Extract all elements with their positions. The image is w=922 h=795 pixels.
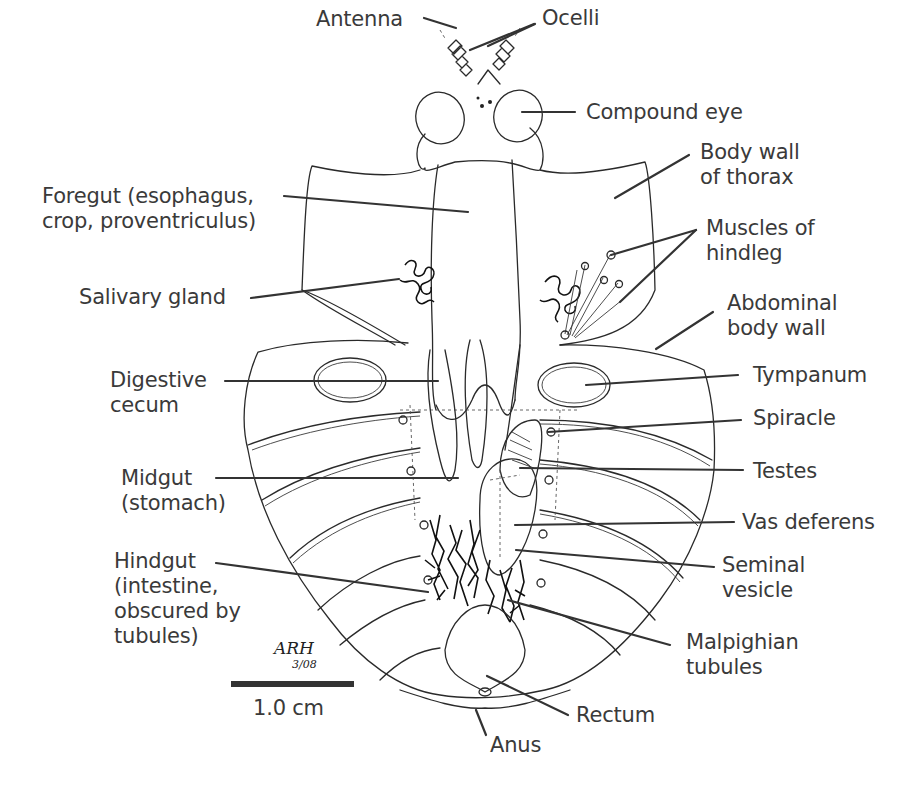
label-malpighian-tubules: Malpighian tubules xyxy=(686,630,799,680)
label-tympanum: Tympanum xyxy=(753,363,867,388)
head-drawing xyxy=(409,70,550,170)
label-digestive-cecum: Digestive cecum xyxy=(110,368,207,418)
spiracles-drawing xyxy=(399,416,555,587)
label-anus: Anus xyxy=(490,733,541,758)
label-abdominal-body-wall: Abdominal body wall xyxy=(727,291,837,341)
hindleg-muscles-drawing xyxy=(561,251,623,339)
label-spiracle: Spiracle xyxy=(753,406,836,431)
label-antenna: Antenna xyxy=(316,7,403,32)
salivary-gland-drawing xyxy=(400,261,580,322)
label-rectum: Rectum xyxy=(576,703,655,728)
label-muscles-hindleg: Muscles of hindleg xyxy=(706,216,815,266)
leader-lines xyxy=(216,18,743,735)
gut-drawing xyxy=(428,340,542,575)
label-compound-eye: Compound eye xyxy=(586,100,743,125)
foregut-drawing xyxy=(431,160,520,419)
label-body-wall-thorax: Body wall of thorax xyxy=(700,140,800,190)
label-foregut: Foregut (esophagus, crop, proventriculus… xyxy=(42,184,256,234)
label-salivary-gland: Salivary gland xyxy=(79,285,226,310)
scale-bar xyxy=(231,681,354,687)
svg-text:3/08: 3/08 xyxy=(292,658,317,671)
label-testes: Testes xyxy=(753,459,817,484)
anatomy-diagram: ARH 3/08 xyxy=(0,0,922,795)
scale-bar-label: 1.0 cm xyxy=(253,696,324,721)
svg-text:ARH: ARH xyxy=(272,638,315,658)
label-midgut: Midgut (stomach) xyxy=(121,466,226,516)
label-ocelli: Ocelli xyxy=(542,6,599,31)
artist-signature: ARH 3/08 xyxy=(272,638,317,671)
tympanum-drawing xyxy=(314,358,610,407)
label-vas-deferens: Vas deferens xyxy=(742,510,875,535)
thorax-drawing xyxy=(302,162,655,345)
label-seminal-vesicle: Seminal vesicle xyxy=(722,553,805,603)
label-hindgut: Hindgut (intestine, obscured by tubules) xyxy=(114,549,241,649)
